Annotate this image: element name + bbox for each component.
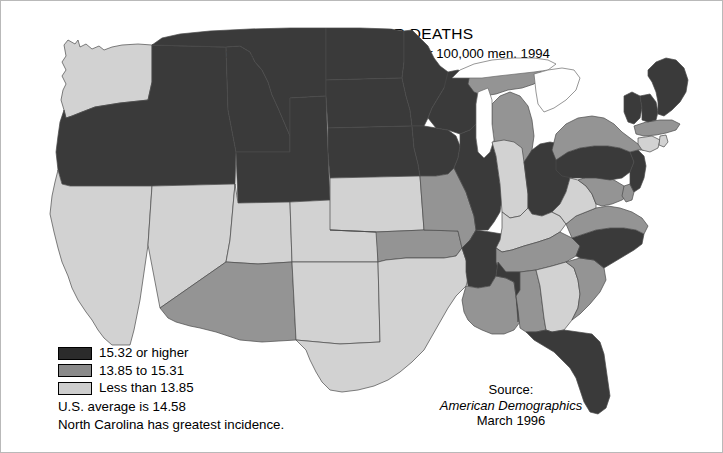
legend-note-average: U.S. average is 14.58 — [58, 398, 284, 416]
state-new-hampshire[interactable] — [640, 94, 658, 122]
source-publication: American Demographics — [436, 398, 586, 414]
legend-swatch-high — [58, 347, 92, 360]
state-vermont[interactable] — [624, 92, 642, 124]
legend-label-mid: 13.85 to 15.31 — [99, 364, 184, 378]
state-kansas[interactable] — [330, 176, 424, 232]
state-california[interactable] — [50, 170, 152, 345]
map-legend: 15.32 or higher 13.85 to 15.31 Less than… — [58, 345, 284, 434]
state-new-jersey[interactable] — [630, 150, 646, 192]
legend-item-mid: 13.85 to 15.31 — [58, 363, 284, 380]
legend-note-max: North Carolina has greatest incidence. — [58, 416, 284, 434]
source-label: Source: — [436, 382, 586, 398]
state-nebraska[interactable] — [328, 126, 420, 178]
legend-item-low: Less than 13.85 — [58, 380, 284, 397]
state-iowa[interactable] — [412, 126, 460, 176]
state-south-dakota[interactable] — [326, 78, 412, 128]
source-block: Source: American Demographics March 1996 — [436, 382, 586, 429]
lake-michigan — [476, 88, 494, 158]
state-north-dakota[interactable] — [326, 28, 404, 80]
legend-swatch-low — [58, 382, 92, 395]
source-date: March 1996 — [436, 413, 586, 429]
state-massachusetts[interactable] — [634, 120, 680, 136]
state-new-mexico[interactable] — [292, 262, 380, 344]
legend-label-high: 15.32 or higher — [99, 346, 188, 360]
lake-huron-erie — [534, 68, 580, 112]
state-rhode-island[interactable] — [659, 135, 668, 147]
legend-label-low: Less than 13.85 — [99, 381, 194, 395]
legend-swatch-mid — [58, 364, 92, 377]
legend-item-high: 15.32 or higher — [58, 345, 284, 362]
